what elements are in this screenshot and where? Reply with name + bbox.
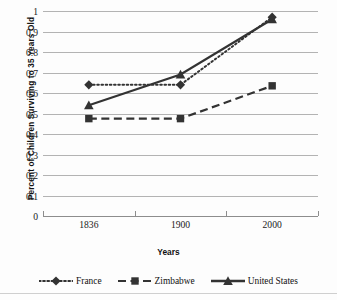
square-marker: [268, 82, 275, 89]
x-axis-tick-mark: [318, 211, 319, 216]
line-chart: Percent of Children Surviving to 35 Year…: [0, 0, 337, 300]
legend-label: Zimbabwe: [155, 276, 195, 286]
triangle-marker: [176, 70, 186, 79]
square-marker: [85, 115, 92, 122]
square-marker: [131, 277, 138, 284]
x-axis-tick-label: 1900: [171, 219, 190, 230]
x-axis-title: Years: [0, 247, 337, 257]
series-line: [89, 19, 272, 105]
x-axis-tick-mark: [226, 211, 227, 216]
triangle-icon: [211, 275, 245, 287]
diamond-marker: [51, 276, 60, 285]
x-axis-tick-label: 1836: [79, 219, 98, 230]
x-axis-tick-mark: [43, 211, 44, 216]
x-axis-tick-label: 2000: [263, 219, 282, 230]
diamond-marker: [84, 80, 93, 89]
legend-label: France: [76, 276, 102, 286]
legend-item-zimbabwe[interactable]: Zimbabwe: [118, 275, 195, 287]
chart-legend: FranceZimbabweUnited States: [0, 275, 337, 287]
legend-item-united-states[interactable]: United States: [211, 275, 298, 287]
x-axis-tick-mark: [135, 211, 136, 216]
square-marker: [177, 115, 184, 122]
legend-item-france[interactable]: France: [39, 275, 102, 287]
series-line: [89, 86, 272, 119]
diamond-icon: [39, 275, 73, 287]
legend-label: United States: [248, 276, 298, 286]
legend-divider: [0, 293, 337, 294]
square-icon: [118, 275, 152, 287]
